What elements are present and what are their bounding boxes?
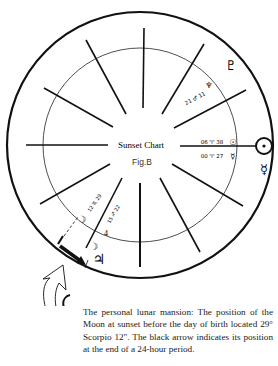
- jupiter-inner-number: 4: [104, 229, 108, 238]
- moon-start-icon: ☽: [78, 214, 87, 225]
- mercury-placement: 00 ♈ 27: [201, 153, 224, 159]
- figure-caption: The personal lunar mansion: The position…: [83, 306, 273, 355]
- mars-placement: 21 ♂ 11: [184, 90, 207, 106]
- mercury-inner-icon: ☿: [231, 152, 236, 161]
- moon-end-icon: ☽: [90, 241, 99, 252]
- sun-placement: 06 ♈ 38: [201, 139, 224, 145]
- neptune-icon: ♆: [205, 81, 212, 90]
- figure-label: Fig.B: [132, 157, 152, 167]
- crescent-mark: [63, 295, 70, 306]
- sunset-chart-diagram: Sunset Chart Fig.B ♇ ☿ ♃ ♆ 21 ♂ 11 06 ♈ …: [0, 0, 278, 306]
- pluto-icon: ♇: [225, 58, 237, 73]
- mercury-outer-icon: ☿: [260, 162, 268, 177]
- sun-inner-icon: ☉: [229, 138, 236, 147]
- jupiter-outer-icon: ♃: [93, 251, 106, 267]
- chart-title: Sunset Chart: [118, 140, 165, 150]
- moon-placement: 12 ♏ 29: [86, 193, 103, 213]
